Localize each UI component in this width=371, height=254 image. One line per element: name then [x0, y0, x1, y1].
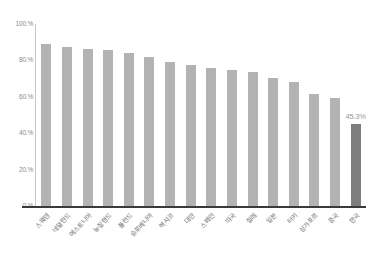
bar-slot	[57, 24, 78, 206]
bar-slot	[77, 24, 98, 206]
x-axis-category-label: 칠레	[244, 212, 258, 226]
x-axis-label-slot: 대만	[180, 210, 201, 254]
x-axis-label-slot: 멕시코	[160, 210, 181, 254]
bar[interactable]	[351, 124, 361, 206]
bar-slot	[201, 24, 222, 206]
x-axis-label-slot: 중국	[325, 210, 346, 254]
y-axis-tick-label: 60.%	[1, 93, 33, 101]
bar-slot: 45.3%	[345, 24, 366, 206]
y-axis-tick-label: 80.%	[1, 56, 33, 64]
y-axis-tick-label: 20.%	[1, 166, 33, 174]
y-axis-tick-label: 100.%	[1, 20, 33, 28]
bar[interactable]	[309, 94, 319, 206]
x-axis-category-label: 대만	[182, 212, 196, 226]
x-axis-label-slot: 뉴질랜드	[98, 210, 119, 254]
x-axis-category-label: 미국	[224, 212, 238, 226]
bar-slot	[98, 24, 119, 206]
bar-value-label: 45.3%	[346, 112, 366, 121]
x-axis-label-slot: 미국	[222, 210, 243, 254]
bar[interactable]	[103, 50, 113, 206]
bar-slot	[160, 24, 181, 206]
y-axis-tick-labels: 0.%20.%40.%60.%80.%100.%	[0, 0, 33, 254]
bar-slot	[36, 24, 57, 206]
bar[interactable]	[268, 78, 278, 206]
bar[interactable]	[144, 57, 154, 206]
x-axis-category-label: 중국	[327, 212, 341, 226]
x-axis-label-slot: 한국	[345, 210, 366, 254]
bar-slot	[222, 24, 243, 206]
bar-slot	[242, 24, 263, 206]
bar-series: 45.3%	[36, 24, 366, 206]
y-axis-tick-label: 40.%	[1, 129, 33, 137]
bar-slot	[119, 24, 140, 206]
x-axis-label-slot: 슬로베니아	[139, 210, 160, 254]
bar[interactable]	[165, 62, 175, 206]
x-axis-category-label: 일본	[265, 212, 279, 226]
bar[interactable]	[41, 44, 51, 206]
bar-slot	[284, 24, 305, 206]
bar-slot	[304, 24, 325, 206]
x-axis-line	[22, 206, 366, 208]
bar[interactable]	[124, 53, 134, 206]
bar-chart: 0.%20.%40.%60.%80.%100.% 45.3% 스웨덴네덜란드에스…	[0, 0, 371, 254]
x-axis-label-slot: 칠레	[242, 210, 263, 254]
x-axis-label-slot: 싱가포르	[304, 210, 325, 254]
bar[interactable]	[83, 49, 93, 206]
bar[interactable]	[206, 68, 216, 206]
x-axis-category-label: 터키	[286, 212, 300, 226]
bar[interactable]	[289, 82, 299, 206]
bar-slot	[180, 24, 201, 206]
bar[interactable]	[62, 47, 72, 206]
x-axis-category-label: 멕시코	[158, 212, 176, 230]
bar[interactable]	[227, 70, 237, 206]
bar-slot	[325, 24, 346, 206]
x-axis-category-label: 한국	[347, 212, 361, 226]
bar[interactable]	[248, 72, 258, 206]
x-axis-category-label: 스페인	[199, 212, 217, 230]
x-axis-label-slot: 스페인	[201, 210, 222, 254]
x-axis-label-slot: 일본	[263, 210, 284, 254]
bar[interactable]	[186, 65, 196, 206]
bar[interactable]	[330, 98, 340, 206]
bar-slot	[263, 24, 284, 206]
bar-slot	[139, 24, 160, 206]
x-axis-category-labels: 스웨덴네덜란드에스토니아뉴질랜드폴란드슬로베니아멕시코대만스페인미국칠레일본터키…	[36, 210, 366, 254]
x-axis-category-label: 스웨덴	[34, 212, 52, 230]
